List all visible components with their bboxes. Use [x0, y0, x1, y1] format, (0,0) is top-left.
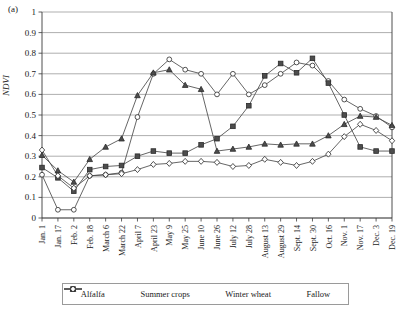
y-tick-label: 0.2	[25, 172, 36, 182]
data-point	[214, 159, 219, 165]
x-tick-label: July 12	[229, 225, 238, 248]
legend-item-winter-wheat: Winter wheat	[225, 289, 271, 299]
data-point	[199, 71, 204, 76]
data-point	[231, 124, 236, 129]
data-point	[278, 71, 283, 76]
data-point	[294, 162, 299, 168]
legend-label: Summer crops	[140, 289, 189, 299]
y-tick-label: 0.1	[25, 192, 36, 202]
x-tick-label: March 6	[102, 225, 111, 252]
data-point	[246, 162, 251, 168]
data-point	[40, 172, 45, 177]
data-point	[262, 141, 268, 146]
data-point	[167, 151, 172, 156]
x-tick-label: April 23	[150, 225, 159, 252]
data-point	[294, 70, 299, 75]
data-point	[119, 163, 124, 168]
series-line-alfalfa	[42, 59, 392, 209]
y-tick-label: 0.3	[25, 151, 37, 161]
data-point	[310, 63, 315, 68]
x-tick-label: Jan. 1	[38, 225, 47, 244]
data-point	[342, 113, 347, 118]
x-tick-label: June 26	[213, 225, 222, 250]
x-tick-label: Sept. 30	[309, 225, 318, 251]
data-point	[262, 156, 267, 162]
x-tick-label: August 13	[261, 225, 270, 258]
data-point	[183, 67, 188, 72]
data-point	[326, 81, 331, 86]
data-point	[167, 57, 172, 62]
data-point	[198, 158, 203, 164]
data-point	[183, 151, 188, 156]
y-tick-label: 0.8	[25, 48, 37, 58]
data-point	[357, 113, 363, 118]
y-tick-label: 0.6	[25, 89, 37, 99]
x-tick-label: Feb. 2	[70, 225, 79, 245]
data-point	[278, 159, 283, 165]
data-point	[56, 207, 61, 212]
x-tick-label: March 22	[118, 225, 127, 256]
series-line-summer-crops	[42, 58, 392, 191]
legend-item-summer-crops: Summer crops	[140, 289, 189, 299]
data-point	[358, 106, 363, 111]
data-point	[151, 161, 156, 167]
legend-item-fallow: Fallow	[307, 289, 331, 299]
data-point	[389, 138, 394, 144]
ndvi-line-chart: 00.10.20.30.40.50.60.70.80.91Jan. 1Jan. …	[0, 0, 400, 282]
x-tick-label: Dec. 3	[372, 225, 381, 246]
x-tick-label: Sept. 14	[293, 225, 302, 251]
x-tick-label: April 7	[134, 225, 143, 248]
data-point	[230, 164, 235, 170]
data-point	[262, 83, 267, 88]
x-tick-label: June 10	[197, 225, 206, 250]
x-tick-label: Nov. 1	[340, 225, 349, 246]
x-tick-label: Jan. 17	[54, 225, 63, 248]
data-point	[135, 154, 140, 159]
data-point	[103, 144, 109, 149]
y-tick-label: 0	[32, 213, 37, 223]
data-point	[167, 160, 172, 166]
data-point	[215, 136, 220, 141]
data-point	[262, 74, 267, 79]
y-tick-label: 1	[32, 7, 37, 17]
data-point	[87, 167, 92, 172]
data-point	[71, 207, 76, 212]
data-point	[39, 147, 44, 153]
legend-label: Alfalfa	[81, 289, 105, 299]
chart-figure: (a) NDVI 00.10.20.30.40.50.60.70.80.91Ja…	[0, 0, 400, 314]
x-tick-label: May 25	[181, 225, 190, 250]
data-point	[310, 56, 315, 61]
x-tick-label: Oct. 16	[325, 225, 334, 249]
data-point	[135, 115, 140, 120]
data-point	[278, 61, 283, 66]
data-point	[231, 71, 236, 76]
data-point	[87, 156, 93, 161]
diamond-open-icon	[63, 284, 83, 294]
x-tick-label: Dec. 19	[388, 225, 397, 250]
data-point	[374, 149, 379, 154]
data-point	[310, 158, 315, 164]
data-point	[40, 165, 45, 170]
x-tick-label: Nov. 17	[356, 225, 365, 250]
data-point	[358, 145, 363, 150]
data-point	[373, 127, 378, 133]
data-point	[87, 173, 92, 179]
legend-label: Winter wheat	[225, 289, 271, 299]
x-tick-label: May 9	[165, 225, 174, 246]
legend-item-alfalfa: Alfalfa	[81, 289, 105, 299]
data-point	[389, 122, 395, 127]
data-point	[342, 97, 347, 102]
legend-label: Fallow	[307, 289, 331, 299]
x-tick-label: Feb. 18	[86, 225, 95, 249]
data-point	[135, 167, 140, 173]
data-point	[341, 121, 347, 126]
y-tick-label: 0.5	[25, 110, 37, 120]
data-point	[182, 158, 187, 164]
y-tick-label: 0.4	[25, 131, 37, 141]
data-point	[151, 149, 156, 154]
data-point	[390, 149, 395, 154]
data-point	[294, 60, 299, 65]
y-tick-label: 0.9	[25, 28, 37, 38]
x-tick-label: August 29	[277, 225, 286, 258]
data-point	[246, 92, 251, 97]
